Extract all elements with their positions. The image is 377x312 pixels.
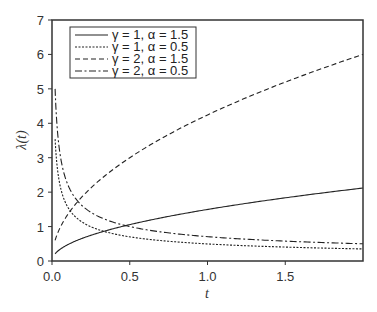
- x-axis-label: t: [205, 286, 210, 301]
- y-axis-ticks: 01234567: [37, 13, 52, 269]
- y-tick-label: 5: [37, 82, 44, 97]
- x-tick-label: 0.0: [43, 269, 61, 284]
- x-tick-label: 1.5: [276, 269, 294, 284]
- series-line-3: [55, 54, 363, 240]
- line-chart: 01234567 0.00.51.01.5 t λ(t) γ = 1, α = …: [0, 0, 377, 312]
- y-tick-label: 6: [37, 47, 44, 62]
- x-axis-ticks: 0.00.51.01.5: [43, 261, 294, 284]
- series-line-4: [55, 89, 363, 244]
- plot-curves: [55, 54, 363, 253]
- y-tick-label: 3: [37, 151, 44, 166]
- y-tick-label: 1: [37, 220, 44, 235]
- y-tick-label: 7: [37, 13, 44, 28]
- y-tick-label: 0: [37, 254, 44, 269]
- x-tick-label: 1.0: [198, 269, 216, 284]
- y-tick-label: 4: [37, 116, 44, 131]
- y-axis-label: λ(t): [14, 130, 30, 151]
- y-tick-label: 2: [37, 185, 44, 200]
- x-tick-label: 0.5: [121, 269, 139, 284]
- legend: γ = 1, α = 1.5γ = 1, α = 0.5γ = 2, α = 1…: [70, 27, 196, 78]
- legend-label: γ = 2, α = 0.5: [112, 63, 188, 78]
